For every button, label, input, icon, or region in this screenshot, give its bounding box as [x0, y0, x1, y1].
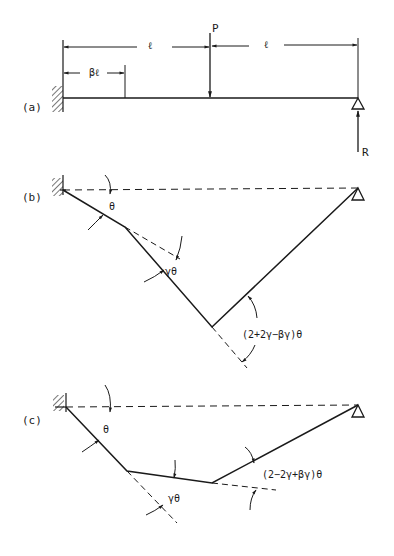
collapse-mechanism — [63, 188, 358, 327]
span-left-label: ℓ — [148, 41, 153, 51]
panel-c-label: (c) — [22, 416, 42, 426]
gamma-theta-label: γθ — [165, 267, 177, 277]
reaction-label: R — [362, 148, 369, 158]
fixed-support-icon — [52, 178, 63, 196]
roller-support-icon — [352, 98, 364, 109]
load-label: P — [212, 24, 219, 34]
plastic-angle-label: (2+2γ−βγ)θ — [242, 330, 302, 340]
fixed-support-icon — [52, 86, 63, 112]
theta-label: θ — [103, 425, 109, 435]
panel-c — [53, 385, 364, 523]
beam-diagram — [0, 0, 394, 556]
theta-label: θ — [109, 202, 115, 212]
span-right-label: ℓ — [264, 40, 269, 50]
panel-b-label: (b) — [22, 193, 42, 203]
fixed-support-icon — [53, 395, 64, 411]
panel-a — [52, 33, 364, 152]
panel-b — [52, 175, 364, 368]
plastic-angle-label: (2−2γ+βγ)θ — [262, 470, 322, 480]
hinge-offset-label: βℓ — [89, 68, 100, 78]
roller-support-icon — [352, 188, 364, 200]
gamma-theta-label: γθ — [168, 494, 180, 504]
panel-a-label: (a) — [22, 103, 42, 113]
